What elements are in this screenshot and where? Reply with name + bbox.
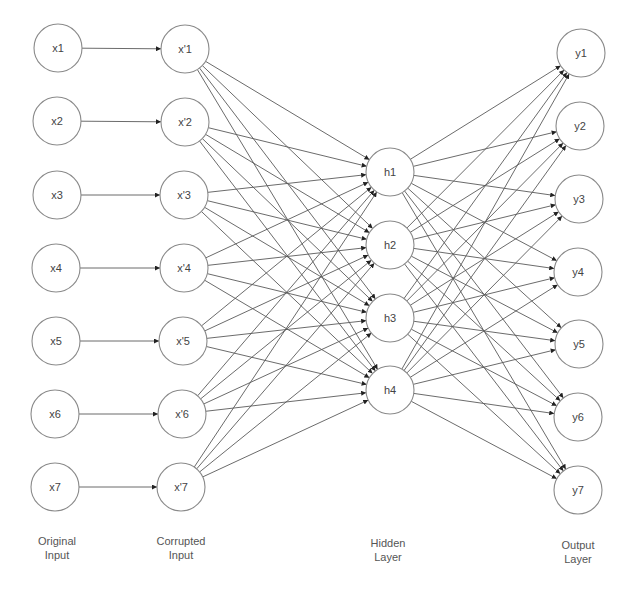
edge-xc7-to-h4 — [203, 400, 368, 477]
node-label: y4 — [572, 266, 584, 278]
layer-label-line: Layer — [374, 551, 402, 563]
node-label: x'6 — [175, 408, 189, 420]
layer-label-hidden-layer: HiddenLayer — [371, 537, 406, 563]
layer-label-line: Layer — [564, 553, 592, 565]
layer-labels-group: OriginalInputCorruptedInputHiddenLayerOu… — [38, 535, 594, 565]
layer-label-line: Input — [45, 549, 69, 561]
edge-xc4-to-h1 — [206, 182, 369, 258]
node-label: x2 — [51, 115, 63, 127]
node-x3: x3 — [33, 171, 81, 219]
edge-h4-to-y2 — [404, 145, 566, 370]
node-label: x'7 — [174, 481, 188, 493]
node-h3: h3 — [366, 294, 414, 342]
layer-label-line: Output — [561, 539, 594, 551]
node-label: x'2 — [178, 116, 192, 128]
node-label: h1 — [384, 166, 396, 178]
edge-xc2-to-h1 — [208, 128, 366, 167]
node-x1: x1 — [34, 24, 82, 72]
node-label: y6 — [572, 411, 584, 423]
edge-xc7-to-h3 — [200, 333, 372, 472]
layer-label-line: Original — [38, 535, 76, 547]
node-y7: y7 — [554, 466, 602, 514]
layer-label-line: Input — [169, 549, 193, 561]
node-label: x4 — [50, 262, 62, 274]
node-y3: y3 — [555, 175, 603, 223]
node-label: y1 — [575, 47, 587, 59]
node-label: x'4 — [177, 262, 191, 274]
edge-h4-to-y5 — [413, 350, 555, 385]
node-y5: y5 — [555, 320, 603, 368]
layer-label-original-input: OriginalInput — [38, 535, 76, 561]
node-y6: y6 — [554, 393, 602, 441]
edge-h3-to-y7 — [408, 334, 561, 474]
node-xc6: x'6 — [158, 390, 206, 438]
layer-label-corrupted-input: CorruptedInput — [157, 535, 206, 561]
node-x4: x4 — [32, 244, 80, 292]
node-h4: h4 — [366, 366, 414, 414]
edge-x2-to-xc2 — [81, 121, 161, 122]
node-y4: y4 — [554, 248, 602, 296]
node-x2: x2 — [33, 97, 81, 145]
node-xc3: x'3 — [160, 171, 208, 219]
node-label: x7 — [49, 481, 61, 493]
layer-label-line: Corrupted — [157, 535, 206, 547]
node-label: h3 — [384, 312, 396, 324]
node-label: x'5 — [176, 335, 190, 347]
node-y2: y2 — [556, 102, 604, 150]
node-label: x3 — [51, 189, 63, 201]
node-x5: x5 — [32, 317, 80, 365]
nodes-group: x1x2x3x4x5x6x7x'1x'2x'3x'4x'5x'6x'7h1h2h… — [31, 24, 605, 514]
layer-label-output-layer: OutputLayer — [561, 539, 594, 565]
edge-x1-to-xc1 — [82, 48, 161, 49]
edge-h3-to-y1 — [404, 72, 567, 298]
autoencoder-diagram: x1x2x3x4x5x6x7x'1x'2x'3x'4x'5x'6x'7h1h2h… — [0, 0, 628, 592]
node-x7: x7 — [31, 463, 79, 511]
edge-xc7-to-h1 — [194, 192, 376, 467]
layer-label-line: Hidden — [371, 537, 406, 549]
node-label: y7 — [572, 484, 584, 496]
node-label: x5 — [50, 335, 62, 347]
edges-group — [79, 48, 569, 487]
node-label: x6 — [49, 408, 61, 420]
node-xc2: x'2 — [161, 98, 209, 146]
node-xc7: x'7 — [157, 463, 205, 511]
node-label: x'1 — [178, 43, 192, 55]
edge-h2-to-y1 — [407, 70, 564, 228]
node-h2: h2 — [366, 221, 414, 269]
node-label: x'3 — [177, 189, 191, 201]
edge-h4-to-y6 — [414, 393, 554, 413]
edge-xc1-to-h1 — [206, 61, 370, 159]
node-xc4: x'4 — [160, 244, 208, 292]
node-label: x1 — [52, 42, 64, 54]
edge-h4-to-y7 — [411, 401, 557, 478]
node-h1: h1 — [366, 148, 414, 196]
node-y1: y1 — [557, 29, 605, 77]
edge-xc5-to-h1 — [202, 187, 372, 326]
node-label: y5 — [573, 338, 585, 350]
node-label: y2 — [574, 120, 586, 132]
node-label: h2 — [384, 239, 396, 251]
node-xc1: x'1 — [161, 25, 209, 73]
node-x6: x6 — [31, 390, 79, 438]
node-label: y3 — [573, 193, 585, 205]
node-xc5: x'5 — [159, 317, 207, 365]
node-label: h4 — [384, 384, 396, 396]
